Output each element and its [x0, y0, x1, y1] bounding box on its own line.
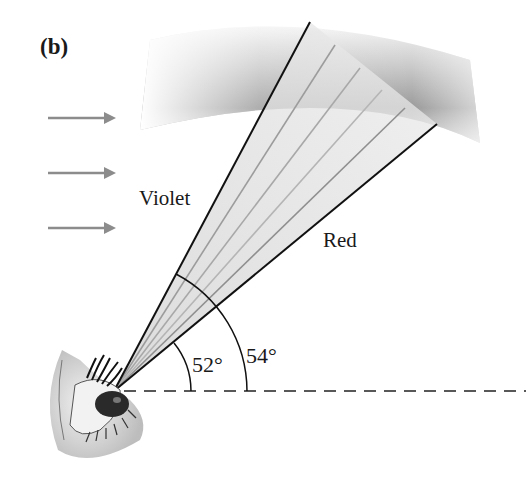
arrow-icon — [48, 222, 116, 234]
angle-label-52: 52° — [192, 352, 223, 378]
sunlight-arrows — [48, 112, 116, 234]
red-label: Red — [323, 228, 357, 253]
diagram-canvas — [0, 0, 526, 478]
panel-label: (b) — [40, 34, 68, 60]
arrow-icon — [48, 167, 116, 179]
arrow-icon — [48, 112, 116, 124]
angle-label-54: 54° — [246, 343, 277, 369]
rainbow-diagram: (b) Violet Red 52° 54° — [0, 0, 526, 478]
angle-arc-52 — [174, 343, 191, 391]
violet-label: Violet — [139, 186, 190, 211]
